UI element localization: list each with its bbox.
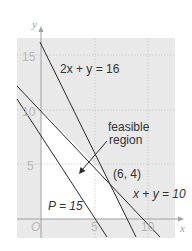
x-axis-arrow-icon bbox=[178, 217, 184, 222]
tick-y-10: 10 bbox=[22, 105, 36, 119]
label-2x-y-16: 2x + y = 16 bbox=[60, 62, 120, 76]
label-point-6-4: (6, 4) bbox=[113, 167, 141, 181]
tick-x-5: 5 bbox=[91, 220, 98, 234]
label-P-15: P = 15 bbox=[48, 199, 83, 213]
tick-x-10: 10 bbox=[141, 220, 155, 234]
y-axis-arrow-icon bbox=[39, 26, 44, 32]
x-axis-label: x bbox=[179, 222, 185, 234]
label-feasible: feasible bbox=[108, 120, 150, 134]
label-x-y-10: x + y = 10 bbox=[132, 187, 186, 201]
tick-y-5: 5 bbox=[27, 159, 34, 173]
tick-y-15: 15 bbox=[22, 50, 36, 64]
linear-programming-chart: 15 10 5 O 5 10 y x 2x + y = 16 feasible … bbox=[0, 0, 192, 251]
origin-label: O bbox=[31, 220, 40, 234]
label-region: region bbox=[109, 133, 142, 147]
y-axis-label: y bbox=[31, 18, 37, 30]
